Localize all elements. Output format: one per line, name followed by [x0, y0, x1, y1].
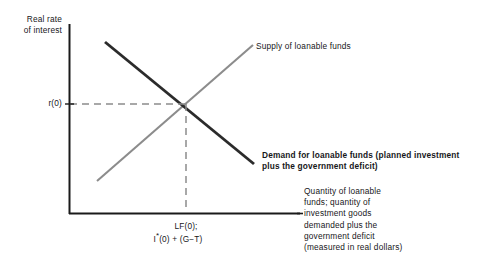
equilibrium-quantity-formula: I*(0) + (G−T) [118, 234, 238, 245]
supply-curve [97, 45, 253, 181]
x-axis-caption-line1: Quantity of loanable [304, 186, 381, 196]
demand-curve-label: Demand for loanable funds (planned inves… [262, 150, 459, 172]
equilibrium-quantity-label: LF(0); [126, 221, 246, 232]
formula-remainder: (0) + (G−T) [159, 234, 202, 244]
x-axis-caption-line6: (measured in real dollars) [304, 242, 402, 252]
y-axis-title-line2: of interest [24, 25, 62, 35]
y-axis-title: Real rate of interest [0, 14, 62, 36]
x-axis-caption-line4: demanded plus the [304, 220, 377, 230]
supply-curve-label: Supply of loanable funds [256, 41, 351, 52]
formula-star-superscript: * [156, 231, 159, 240]
x-axis-caption-line3: investment goods [304, 208, 372, 218]
x-axis-caption: Quantity of loanable funds; quantity of … [304, 186, 402, 253]
x-axis-caption-line5: government deficit [304, 231, 375, 241]
loanable-funds-diagram [0, 0, 498, 265]
demand-curve-label-line1: Demand for loanable funds (planned inves… [262, 150, 459, 160]
y-axis-title-line1: Real rate [27, 14, 62, 24]
demand-curve-label-line2: plus the government deficit) [262, 161, 378, 171]
x-axis-caption-line2: funds; quantity of [304, 197, 370, 207]
y-axis-tick-label: r(0) [6, 98, 62, 109]
demand-curve [105, 42, 254, 164]
